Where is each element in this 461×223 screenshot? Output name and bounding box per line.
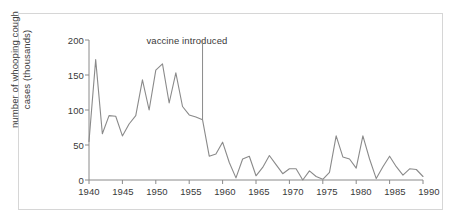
data-series-line	[89, 60, 423, 180]
axes	[85, 40, 423, 184]
plot-area	[0, 0, 461, 223]
whooping-cough-line-chart: number of whooping cough cases (thousand…	[0, 0, 461, 223]
